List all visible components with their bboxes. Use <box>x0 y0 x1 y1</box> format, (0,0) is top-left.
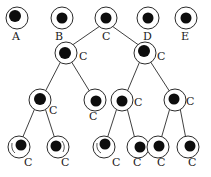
nucleus-icon <box>34 93 46 105</box>
cell-label: C <box>188 156 196 169</box>
nucleus-icon <box>57 13 68 24</box>
cell-label: D <box>143 30 152 43</box>
cell-C7: C <box>8 136 32 169</box>
edge-c2-c6 <box>150 61 170 92</box>
cell-C-root: C <box>95 7 117 43</box>
cell-C9: C <box>93 136 120 169</box>
cell-label: E <box>181 30 189 43</box>
cell-label: C <box>186 95 194 108</box>
nucleus-icon <box>59 47 71 59</box>
cell-label: A <box>11 30 21 43</box>
edge-c1-c4 <box>71 61 90 92</box>
cell-label: C <box>157 156 165 169</box>
edge-c6-c11 <box>161 108 170 139</box>
cell-B: B <box>51 7 73 43</box>
cell-C8: C <box>47 136 69 169</box>
nucleus-icon <box>91 96 102 107</box>
nucleus-icon <box>117 96 128 107</box>
nucleus-icon <box>51 141 62 152</box>
cell-C1: C <box>55 42 87 64</box>
nucleus-icon <box>135 142 146 153</box>
edge-c0-c1 <box>71 26 100 46</box>
cell-C5: C <box>111 89 142 111</box>
cell-label: C <box>157 50 165 63</box>
cell-label: C <box>79 50 87 63</box>
edge-c5-c10 <box>127 108 135 139</box>
cell-label: C <box>49 104 57 117</box>
edge-c0-c2 <box>112 26 140 46</box>
cell-label: C <box>133 156 141 169</box>
edge-c5-c9 <box>107 108 117 139</box>
cell-C10: C <box>127 136 149 169</box>
cell-C11: C <box>147 136 169 169</box>
cell-E: E <box>175 7 197 43</box>
nucleus-icon <box>169 94 180 105</box>
edge-c3-c7 <box>22 108 35 139</box>
cell-label: C <box>112 156 120 169</box>
cell-label: C <box>102 30 110 43</box>
cell-A: A <box>6 7 28 43</box>
nucleus-icon <box>181 13 192 24</box>
cell-label: C <box>24 156 32 169</box>
nucleus-icon <box>9 10 21 22</box>
nucleus-icon <box>100 139 111 150</box>
cell-C12: C <box>177 136 199 169</box>
edge-c1-c3 <box>45 61 61 92</box>
nucleus-icon <box>185 141 196 152</box>
edge-c6-c12 <box>180 108 186 139</box>
nucleus-icon <box>138 45 150 57</box>
cell-label: B <box>55 30 63 43</box>
cell-label: C <box>89 110 97 123</box>
cell-C4: C <box>84 89 106 123</box>
nucleus-icon <box>101 13 112 24</box>
cell-label: C <box>134 96 142 109</box>
nucleus-icon <box>154 141 165 152</box>
nucleus-icon <box>16 140 27 151</box>
cell-C6: C <box>164 89 194 111</box>
cell-C2: C <box>134 42 165 64</box>
cell-label: C <box>61 156 69 169</box>
nucleus-icon <box>143 13 154 24</box>
cell-D: D <box>137 7 159 43</box>
cell-lineage-diagram: A B C D E C C <box>0 0 211 177</box>
edge-c2-c5 <box>127 61 140 92</box>
